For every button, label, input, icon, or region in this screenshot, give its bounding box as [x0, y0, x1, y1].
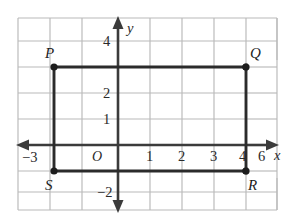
x-tick-label-neg3: −3: [22, 149, 37, 165]
x-tick-label-6: 6: [258, 148, 265, 164]
x-tick-label-3: 3: [210, 148, 217, 164]
y-axis-arrow-down-icon: [113, 200, 124, 213]
vertex-dot-s: [50, 167, 57, 174]
y-axis-label: y: [125, 20, 134, 36]
y-tick-label-4: 4: [103, 33, 111, 49]
y-tick-label-2: 2: [103, 85, 110, 101]
x-axis-label: x: [273, 147, 281, 163]
y-tick-label-1: 1: [103, 111, 110, 127]
vertex-label-r: R: [247, 177, 257, 193]
vertex-label-s: S: [45, 177, 53, 193]
vertex-label-p: P: [44, 45, 54, 61]
y-tick-label-neg2: −2: [97, 184, 112, 200]
x-tick-label-4: 4: [239, 148, 247, 164]
origin-label: O: [92, 149, 102, 164]
coordinate-plane-figure: y x −3 O 1 2 3 4 6 4 2 1 −2 P Q R S: [0, 0, 295, 224]
vertex-dot-q: [242, 63, 249, 70]
coordinate-plane-graphic: y x −3 O 1 2 3 4 6 4 2 1 −2 P Q R S: [0, 0, 295, 224]
vertex-label-q: Q: [250, 45, 261, 61]
vertex-dot-p: [50, 63, 57, 70]
x-tick-label-1: 1: [146, 148, 153, 164]
vertex-dot-r: [242, 167, 249, 174]
grid-lines: [18, 18, 277, 210]
x-tick-label-2: 2: [178, 148, 185, 164]
